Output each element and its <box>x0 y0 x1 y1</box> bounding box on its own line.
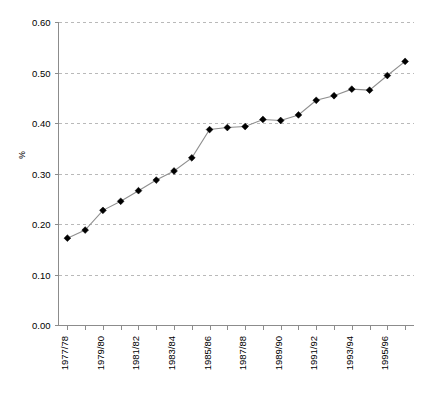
x-tick-label: 1983/84 <box>166 336 177 370</box>
line-chart: 0.000.100.200.300.400.500.60 1977/781979… <box>0 0 429 393</box>
y-tick-label: 0.40 <box>32 118 51 129</box>
x-tick-label: 1995/96 <box>379 336 390 370</box>
axis-lines-group <box>59 22 415 326</box>
data-point-marker <box>277 117 284 124</box>
x-tick-label: 1979/80 <box>95 336 106 370</box>
data-point-marker <box>153 177 160 184</box>
x-tick-label: 1989/90 <box>273 336 284 370</box>
x-tick-label: 1993/94 <box>344 336 355 370</box>
x-tick-label: 1987/88 <box>237 336 248 370</box>
data-point-marker <box>117 198 124 205</box>
y-tick-label: 0.30 <box>32 169 51 180</box>
data-point-marker <box>331 92 338 99</box>
y-tick-labels-group: 0.000.100.200.300.400.500.60 <box>32 17 51 331</box>
x-tick-label: 1981/82 <box>130 336 141 370</box>
y-axis-title: % <box>17 151 27 159</box>
y-tick-label: 0.20 <box>32 219 51 230</box>
y-tick-label: 0.50 <box>32 68 51 79</box>
chart-canvas: 0.000.100.200.300.400.500.60 1977/781979… <box>0 0 429 393</box>
data-point-marker <box>206 126 213 133</box>
data-point-marker <box>135 187 142 194</box>
data-point-marker <box>242 123 249 130</box>
y-tick-label: 0.60 <box>32 17 51 28</box>
data-point-marker <box>260 116 267 123</box>
gridlines-group <box>59 23 415 276</box>
x-tick-label: 1991/92 <box>308 336 319 370</box>
x-tick-labels-group: 1977/781979/801981/821983/841985/861987/… <box>59 336 390 370</box>
data-point-marker <box>348 86 355 93</box>
data-point-marker <box>64 235 71 242</box>
data-series-group <box>64 58 409 242</box>
x-tick-label: 1985/86 <box>202 336 213 370</box>
series-markers-group <box>64 58 409 242</box>
data-point-marker <box>224 124 231 131</box>
y-tick-label: 0.00 <box>32 320 51 331</box>
y-axis-title-group: % <box>17 151 27 159</box>
y-tick-label: 0.10 <box>32 270 51 281</box>
series-line-path <box>67 61 405 238</box>
x-tick-label: 1977/78 <box>59 336 70 370</box>
